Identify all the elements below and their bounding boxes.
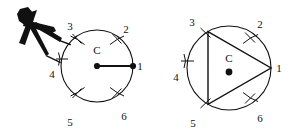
right-circle-outline	[187, 26, 271, 110]
left-label-6: 6	[121, 110, 127, 122]
right-center-label: C	[225, 52, 232, 64]
left-figure-group: 1 2 3 4 5 6 C 1	[0, 0, 295, 130]
right-tick-marks	[181, 28, 258, 108]
right-label-3: 3	[189, 16, 195, 28]
left-label-3: 3	[67, 20, 73, 32]
right-label-2: 2	[257, 18, 263, 30]
left-label-2: 2	[123, 23, 129, 35]
right-label-6: 6	[257, 112, 263, 124]
right-label-4: 4	[173, 71, 179, 83]
left-center-label: C	[93, 44, 100, 56]
inscribed-triangle	[208, 32, 271, 105]
left-point-1-dot	[130, 63, 136, 69]
right-circle-center-dot	[226, 69, 233, 76]
right-label-1: 1	[276, 62, 282, 74]
left-label-5: 5	[67, 116, 73, 128]
right-label-5: 5	[190, 117, 196, 129]
diagram-canvas: 1 2 3 4 5 6 C 1	[0, 0, 295, 130]
left-label-1: 1	[137, 60, 143, 72]
left-label-4: 4	[49, 68, 55, 80]
